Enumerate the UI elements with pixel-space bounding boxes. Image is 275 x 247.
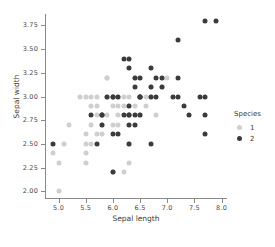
x-axis-tick-label: 5.0 [53,204,64,212]
legend: Species 12 [233,110,275,144]
y-axis-tick-label: 2.50 [23,140,38,148]
x-axis-tick-label: 6.5 [135,204,146,212]
y-axis-tick [41,73,45,74]
data-point [121,113,126,118]
data-point [132,122,137,127]
data-point [186,113,191,118]
x-axis-tick [86,199,87,203]
x-axis-tick-label: 8.0 [216,204,227,212]
data-point [203,113,208,118]
data-point [143,94,148,99]
data-point [94,94,99,99]
x-axis-tick-label: 5.5 [80,204,91,212]
data-point [170,94,175,99]
data-point [100,132,105,137]
y-axis-tick-label: 3.00 [23,93,38,101]
data-point [83,94,88,99]
data-point [148,85,153,90]
x-axis-tick [167,199,168,203]
data-point [100,122,105,127]
data-point [62,141,67,146]
legend-item-2[interactable]: 2 [233,133,275,144]
y-axis-tick-label: 3.25 [23,69,38,77]
data-point [127,56,132,61]
data-point [127,66,132,71]
data-point [197,94,202,99]
data-point [110,170,115,175]
data-point [110,104,115,109]
legend-dot [237,136,242,141]
data-point [138,113,143,118]
y-axis-tick-label: 2.25 [23,164,38,172]
y-axis-tick [41,191,45,192]
data-point [138,94,143,99]
data-point [116,122,121,127]
data-point [148,66,153,71]
x-axis-tick [140,199,141,203]
data-point [138,75,143,80]
data-point [83,151,88,156]
data-point [89,122,94,127]
data-point [203,94,208,99]
data-point [127,160,132,165]
data-point [154,94,159,99]
data-point [176,75,181,80]
data-point [67,122,72,127]
data-point [127,122,132,127]
data-point [132,85,137,90]
legend-item-label: 1 [250,124,254,132]
x-axis-tick [113,199,114,203]
data-point [110,94,115,99]
legend-item-1[interactable]: 1 [233,122,275,133]
data-point [148,141,153,146]
data-point [89,113,94,118]
data-point [127,94,132,99]
x-axis-tick [222,199,223,203]
x-axis-tick-label: 7.5 [189,204,200,212]
data-point [148,94,153,99]
data-point [116,104,121,109]
data-point [143,104,148,109]
x-axis-line [45,198,227,199]
data-point [89,104,94,109]
data-point [89,141,94,146]
data-point [105,94,110,99]
data-point [110,122,115,127]
data-point [121,56,126,61]
data-point [132,113,137,118]
data-point [116,113,121,118]
y-axis-tick [41,97,45,98]
data-point [127,104,132,109]
data-point [51,151,56,156]
y-axis-tick-label: 2.00 [23,187,38,195]
y-axis-tick-label: 3.50 [23,45,38,53]
data-point [121,104,126,109]
data-point [105,75,110,80]
scatter-plot-figure: 2.002.252.502.753.003.253.503.75 5.05.56… [0,0,275,247]
legend-entries: 12 [233,122,275,144]
legend-marker-icon [233,136,245,141]
plot-area [45,14,227,198]
legend-marker-icon [233,125,245,130]
data-point [94,104,99,109]
x-axis-tick [194,199,195,203]
data-point [214,18,219,23]
data-point [127,141,132,146]
data-point [78,94,83,99]
data-point [176,37,181,42]
data-point [94,113,99,118]
data-point [159,85,164,90]
y-axis-tick [41,25,45,26]
data-point [116,94,121,99]
data-point [154,75,159,80]
data-point [100,113,105,118]
data-point [121,170,126,175]
data-point [121,94,126,99]
y-axis-tick-label: 3.75 [23,21,38,29]
data-point [105,113,110,118]
data-point [51,141,56,146]
data-point [110,132,115,137]
legend-dot [237,125,242,130]
data-point [159,75,164,80]
data-point [176,94,181,99]
